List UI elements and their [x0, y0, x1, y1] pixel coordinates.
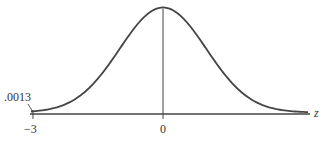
normal-curve	[31, 8, 308, 113]
tail-area-label: .0013	[4, 91, 31, 103]
axis-label-z: z	[314, 107, 319, 119]
tick-label-neg3: −3	[24, 123, 37, 135]
tick-label-0: 0	[160, 123, 166, 135]
